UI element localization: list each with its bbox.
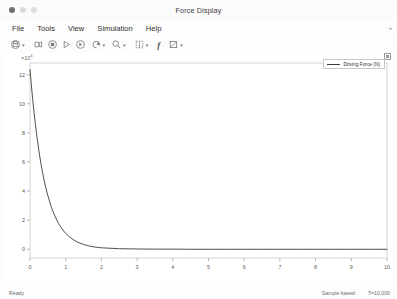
svg-text:4: 4 — [171, 264, 174, 270]
svg-text:10: 10 — [19, 101, 25, 107]
signal-statistics-icon[interactable]: f — [154, 39, 165, 50]
legend-label-driving-force: Driving Force (N) — [343, 62, 380, 67]
chart-canvas[interactable]: 012345678910024681012 — [4, 53, 393, 286]
style-caret-icon[interactable]: ▼ — [179, 43, 184, 48]
maximize-button[interactable] — [31, 7, 37, 13]
svg-text:0: 0 — [22, 246, 25, 252]
svg-text:8: 8 — [22, 130, 25, 136]
menu-tools[interactable]: Tools — [36, 23, 56, 34]
toolbar-zoom-group[interactable]: ▼ — [111, 38, 129, 51]
window-controls — [9, 7, 37, 13]
close-button[interactable] — [9, 7, 15, 13]
svg-text:0: 0 — [29, 264, 32, 270]
status-bar: Ready Sample based T=10.000 — [0, 286, 397, 299]
status-mode-text: Sample based — [322, 290, 355, 296]
step-forward-icon[interactable] — [75, 39, 86, 50]
stop-icon[interactable] — [47, 39, 58, 50]
toolbar-restore-view-group[interactable]: ▼ — [91, 38, 109, 51]
force-display-window: Force Display File Tools View Simulation… — [0, 0, 397, 299]
svg-text:10: 10 — [384, 264, 390, 270]
title-bar: Force Display — [0, 0, 397, 20]
menu-view[interactable]: View — [67, 23, 85, 34]
svg-text:2: 2 — [100, 264, 103, 270]
menu-help[interactable]: Help — [145, 23, 163, 34]
toolbar-print-group[interactable]: ▼ — [10, 38, 28, 51]
print-caret-icon[interactable]: ▼ — [21, 43, 26, 48]
svg-text:12: 12 — [19, 72, 25, 78]
svg-text:6: 6 — [22, 159, 25, 165]
svg-text:3: 3 — [136, 264, 139, 270]
zoom-icon[interactable] — [111, 39, 122, 50]
menu-file[interactable]: File — [11, 23, 25, 34]
svg-text:1: 1 — [64, 264, 67, 270]
svg-text:f: f — [157, 40, 161, 50]
svg-text:7: 7 — [278, 264, 281, 270]
run-icon[interactable] — [61, 39, 72, 50]
window-title: Force Display — [0, 6, 397, 15]
svg-text:6: 6 — [243, 264, 246, 270]
configuration-icon[interactable] — [33, 39, 44, 50]
svg-text:9: 9 — [350, 264, 353, 270]
menu-simulation[interactable]: Simulation — [96, 23, 133, 34]
status-time-text: T=10.000 — [368, 290, 390, 296]
svg-text:2: 2 — [22, 217, 25, 223]
print-icon[interactable] — [10, 39, 21, 50]
toolbar-style-group[interactable]: ▼ — [168, 38, 186, 51]
style-icon[interactable] — [168, 39, 179, 50]
chart-legend[interactable]: Driving Force (N) — [323, 59, 385, 69]
svg-text:4: 4 — [22, 188, 25, 194]
toolbar: ▼ — [0, 36, 397, 53]
toolbar-cursor-group[interactable]: ▼ — [134, 38, 152, 51]
svg-text:5: 5 — [207, 264, 210, 270]
legend-line-sample — [327, 64, 340, 65]
minimize-button[interactable] — [20, 7, 26, 13]
restore-view-icon[interactable] — [91, 39, 102, 50]
menu-overflow-icon[interactable]: » — [389, 25, 392, 31]
zoom-caret-icon[interactable]: ▼ — [122, 43, 127, 48]
menu-bar: File Tools View Simulation Help » — [0, 20, 397, 36]
svg-text:8: 8 — [314, 264, 317, 270]
status-ready-text: Ready — [9, 290, 24, 296]
restore-view-caret-icon[interactable]: ▼ — [102, 43, 107, 48]
cursor-caret-icon[interactable]: ▼ — [145, 43, 150, 48]
plot-area[interactable]: ×104 012345678910024681012 Driving Force… — [4, 53, 393, 286]
cursor-measurement-icon[interactable] — [134, 39, 145, 50]
